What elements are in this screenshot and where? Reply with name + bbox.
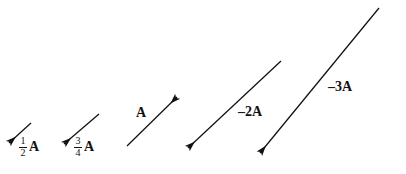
vector-symbol: A — [29, 140, 39, 154]
vector-label-minus-three-a: –3A — [328, 80, 352, 94]
vector-label-minus-two-a: –2A — [238, 105, 262, 119]
fraction-numerator: 3 — [75, 136, 82, 147]
vector-symbol: A — [84, 140, 94, 154]
fraction-one-half: 1 2 — [19, 136, 27, 158]
vector-figure: 1 2 A 3 4 A A –2A –3A — [0, 0, 406, 174]
vector-arrow-minus-three-a — [260, 8, 379, 153]
vector-arrow-minus-two-a — [188, 61, 281, 148]
fraction-denominator: 4 — [75, 148, 82, 159]
fraction-three-quarters: 3 4 — [74, 136, 82, 158]
fraction-denominator: 2 — [20, 148, 27, 159]
vector-label-three-quarter-a: 3 4 A — [74, 136, 94, 158]
fraction-numerator: 1 — [20, 136, 27, 147]
vector-label-a: A — [136, 106, 146, 120]
vector-arrow-a — [127, 97, 177, 146]
vector-label-half-a: 1 2 A — [19, 136, 39, 158]
